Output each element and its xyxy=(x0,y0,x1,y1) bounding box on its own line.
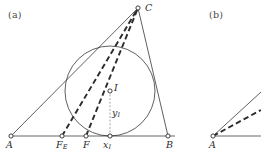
point-FE-marker xyxy=(60,134,64,138)
label-incenter-I: I xyxy=(114,82,118,93)
label-abscissa-xI-subscript: I xyxy=(109,143,112,151)
label-ordinate-yI: yI xyxy=(112,107,120,119)
point-xI-marker xyxy=(108,134,112,138)
vertex-A-marker xyxy=(9,134,13,138)
label-vertex-C: C xyxy=(145,2,152,13)
panel-a-group xyxy=(9,6,175,138)
side-BC xyxy=(138,8,168,136)
label-point-FE-subscript: E xyxy=(63,143,68,151)
label-vertex-A: A xyxy=(6,139,13,150)
cevian-FE-to-C xyxy=(62,8,138,136)
label-ordinate-yI-base: y xyxy=(112,107,117,118)
label-ordinate-yI-subscript: I xyxy=(118,111,121,119)
label-point-FE: FE xyxy=(56,139,68,151)
vertex-A-marker-panel-b xyxy=(211,134,215,138)
vertex-B-marker xyxy=(166,134,170,138)
label-abscissa-xI-base: x xyxy=(103,139,108,150)
point-F-marker xyxy=(84,134,88,138)
geometry-canvas xyxy=(0,0,261,154)
panel-b-group xyxy=(211,92,261,138)
figure-root: (a) (b) xyxy=(0,0,261,154)
label-abscissa-xI: xI xyxy=(103,139,111,151)
label-point-FE-base: F xyxy=(56,139,63,150)
label-vertex-B: B xyxy=(166,139,173,150)
label-point-F: F xyxy=(83,139,90,150)
incenter-I-marker xyxy=(108,89,112,93)
label-vertex-A-panel-b: A xyxy=(209,139,216,150)
vertex-C-marker xyxy=(136,6,140,10)
